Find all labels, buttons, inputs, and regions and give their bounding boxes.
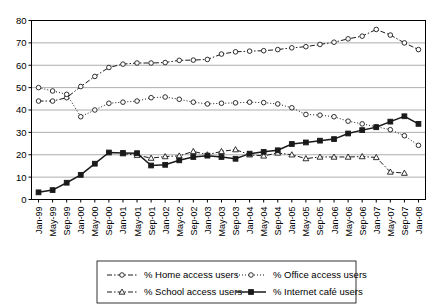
data-point-marker-square: [50, 188, 55, 193]
data-point-marker-circle: [135, 61, 140, 66]
data-point-marker-circle: [64, 92, 69, 97]
data-point-marker-square: [275, 148, 280, 153]
data-point-marker-square: [261, 149, 266, 154]
data-point-marker-square: [36, 190, 41, 195]
data-point-marker-square: [249, 290, 254, 295]
data-point-marker-circle: [233, 50, 238, 55]
data-point-marker-square: [219, 155, 224, 160]
data-point-marker-square: [346, 131, 351, 136]
line-chart: 01020304050607080 Jan-99May-99Sep-99Jan-…: [0, 0, 447, 308]
data-point-marker-square: [135, 151, 140, 156]
data-point-marker-circle: [233, 101, 238, 106]
x-tick-label: Sep-02: [189, 207, 199, 236]
data-point-marker-square: [416, 121, 421, 126]
data-series-layer: [36, 27, 421, 195]
data-point-marker-circle: [93, 108, 98, 113]
data-point-marker-square: [289, 142, 294, 147]
x-tick-label: May-04: [259, 207, 269, 237]
data-point-marker-circle: [163, 95, 168, 100]
data-point-marker-square: [64, 180, 69, 185]
data-point-marker-square: [163, 162, 168, 167]
x-tick-label: Sep-05: [315, 207, 325, 236]
x-tick-label: Jan-05: [287, 207, 297, 235]
data-point-marker-square: [106, 150, 111, 155]
data-point-marker-circle: [416, 47, 421, 52]
data-point-marker-square: [149, 163, 154, 168]
data-point-marker-circle: [304, 44, 309, 49]
x-tick-label: Jan-99: [34, 207, 44, 235]
data-point-marker-circle: [135, 99, 140, 104]
y-tick-label: 20: [16, 149, 27, 160]
data-point-marker-circle: [374, 27, 379, 32]
data-point-marker-circle: [107, 65, 112, 70]
data-point-marker-circle: [163, 60, 168, 65]
data-point-marker-triangle: [401, 170, 407, 175]
x-tick-label: May-00: [90, 207, 100, 237]
chart-canvas: 01020304050607080 Jan-99May-99Sep-99Jan-…: [0, 0, 447, 308]
data-point-marker-square: [205, 153, 210, 158]
data-point-marker-circle: [205, 57, 210, 62]
x-tick-label: Sep-99: [62, 207, 72, 236]
data-point-marker-circle: [205, 102, 210, 107]
data-point-marker-circle: [290, 105, 295, 110]
x-tick-label: Jan-07: [372, 207, 382, 235]
data-point-marker-triangle: [190, 148, 196, 153]
data-point-marker-circle: [360, 122, 365, 127]
y-tick-label: 0: [21, 194, 26, 205]
x-tick-label: Jan-08: [414, 207, 424, 235]
y-tick-label: 50: [16, 82, 27, 93]
series-line: [39, 88, 419, 146]
y-axis-tick-labels: 01020304050607080: [16, 15, 32, 205]
data-point-marker-circle: [346, 37, 351, 42]
x-tick-label: Jan-04: [245, 207, 255, 235]
data-point-marker-square: [92, 161, 97, 166]
data-point-marker-circle: [332, 114, 337, 119]
y-tick-label: 40: [16, 104, 27, 115]
data-point-marker-square: [402, 114, 407, 119]
data-point-marker-circle: [261, 100, 266, 105]
data-point-marker-circle: [318, 113, 323, 118]
y-tick-label: 80: [16, 15, 27, 26]
data-point-marker-square: [121, 151, 126, 156]
data-point-marker-square: [191, 155, 196, 160]
data-point-marker-circle: [93, 74, 98, 79]
data-point-marker-circle: [36, 99, 41, 104]
data-point-marker-circle: [50, 99, 55, 104]
data-point-marker-circle: [219, 101, 224, 106]
data-point-marker-circle: [416, 143, 421, 148]
x-tick-label: May-06: [344, 207, 354, 237]
data-point-marker-circle: [346, 119, 351, 124]
x-tick-label: Sep-06: [358, 207, 368, 236]
y-tick-label: 10: [16, 172, 27, 183]
data-point-marker-circle: [261, 48, 266, 53]
x-tick-label: Sep-01: [147, 207, 157, 236]
legend-label: % Home access users: [144, 269, 239, 280]
data-point-marker-circle: [36, 85, 41, 90]
data-point-marker-square: [303, 140, 308, 145]
data-point-marker-square: [78, 172, 83, 177]
data-point-marker-circle: [177, 58, 182, 63]
x-tick-label: Jan-03: [203, 207, 213, 235]
series-1: [36, 85, 421, 147]
legend-label: % School access users: [144, 286, 242, 297]
data-point-marker-triangle: [359, 154, 365, 159]
data-point-marker-square: [360, 128, 365, 133]
data-point-marker-circle: [107, 101, 112, 106]
data-point-marker-circle: [191, 100, 196, 105]
data-point-marker-square: [247, 151, 252, 156]
x-tick-label: Jan-06: [330, 207, 340, 235]
data-point-marker-circle: [304, 112, 309, 117]
data-point-marker-triangle: [233, 147, 239, 152]
data-point-marker-circle: [177, 97, 182, 102]
data-point-marker-circle: [402, 133, 407, 138]
data-point-marker-square: [332, 137, 337, 142]
x-tick-label: May-03: [217, 207, 227, 237]
x-tick-label: Sep-00: [104, 207, 114, 236]
data-point-marker-circle: [360, 34, 365, 39]
data-point-marker-circle: [249, 273, 254, 278]
x-tick-label: May-02: [175, 207, 185, 237]
data-point-marker-circle: [290, 45, 295, 50]
x-tick-label: Jan-00: [76, 207, 86, 235]
y-tick-label: 70: [16, 37, 27, 48]
x-axis-tick-labels: Jan-99May-99Sep-99Jan-00May-00Sep-00Jan-…: [34, 207, 424, 237]
